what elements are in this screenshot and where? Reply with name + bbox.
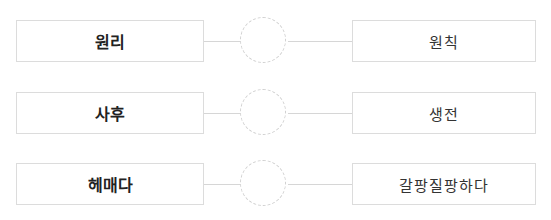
connector-line <box>204 184 240 185</box>
answer-circle[interactable] <box>240 89 286 135</box>
match-row-1: 원리 원칙 <box>0 14 551 70</box>
connector-line <box>288 41 352 42</box>
match-row-2: 사후 생전 <box>0 86 551 142</box>
answer-circle[interactable] <box>240 160 286 206</box>
connector-line <box>288 184 352 185</box>
connector-line <box>204 113 240 114</box>
right-word-box: 원칙 <box>352 20 536 62</box>
match-row-3: 헤매다 갈팡질팡하다 <box>0 157 551 213</box>
left-word-box: 헤매다 <box>16 163 204 205</box>
right-word: 갈팡질팡하다 <box>399 174 489 195</box>
answer-circle[interactable] <box>240 17 286 63</box>
right-word-box: 갈팡질팡하다 <box>352 163 536 205</box>
left-word-box: 사후 <box>16 92 204 134</box>
connector-line <box>204 41 240 42</box>
right-word: 원칙 <box>429 31 459 52</box>
connector-line <box>288 113 352 114</box>
left-word: 헤매다 <box>88 172 133 196</box>
left-word: 원리 <box>95 29 125 53</box>
right-word: 생전 <box>429 103 459 124</box>
left-word-box: 원리 <box>16 20 204 62</box>
right-word-box: 생전 <box>352 92 536 134</box>
left-word: 사후 <box>95 101 125 125</box>
